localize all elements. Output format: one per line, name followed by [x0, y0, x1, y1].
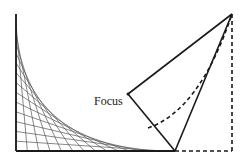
base-to-apex-line — [175, 14, 232, 151]
string-line — [16, 83, 96, 152]
focus-to-apex-line — [128, 14, 232, 94]
focus-label: Focus — [94, 94, 123, 108]
parabola-dashed-continuation — [148, 14, 232, 128]
parabola-diagram: Focus — [0, 0, 248, 160]
string-art-lines — [16, 14, 175, 151]
focus-point — [127, 93, 130, 96]
focus-to-base-line — [128, 94, 175, 151]
